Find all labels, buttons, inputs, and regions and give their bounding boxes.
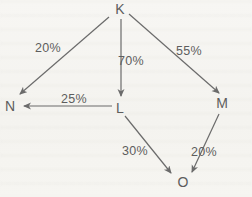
node-layer: KNLMO: [5, 1, 228, 190]
scanned-flow-diagram: 20%70%55%25%30%20% KNLMO: [0, 0, 252, 197]
node-K: K: [115, 1, 125, 17]
edge-K-to-N: [20, 17, 109, 94]
edge-label-M-to-O: 20%: [191, 145, 217, 159]
edge-label-K-to-N: 20%: [35, 41, 61, 55]
edge-M-to-O: [192, 114, 219, 172]
node-M: M: [216, 95, 228, 111]
edge-label-K-to-L: 70%: [118, 54, 144, 68]
node-O: O: [178, 174, 189, 190]
edge-label-K-to-M: 55%: [176, 44, 202, 58]
edge-label-layer: 20%70%55%25%30%20%: [35, 41, 217, 159]
flow-diagram-svg: 20%70%55%25%30%20% KNLMO: [0, 0, 252, 197]
edge-label-L-to-N: 25%: [61, 92, 87, 106]
node-L: L: [116, 100, 124, 116]
edge-label-L-to-O: 30%: [122, 144, 148, 158]
node-N: N: [5, 98, 15, 114]
edge-layer: [20, 14, 219, 173]
